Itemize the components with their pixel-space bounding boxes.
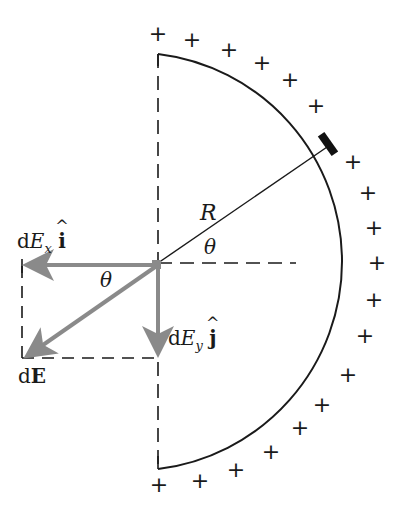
plus-charge-icon: + (183, 29, 201, 51)
plus-charge-icon: + (307, 95, 325, 117)
dEy-label: dEy ^j (168, 328, 216, 348)
plus-charge-icon: + (220, 39, 238, 61)
dEx-subscript: x (44, 241, 51, 256)
i-hat-unit: ^i (58, 231, 66, 251)
radius-label: R (200, 202, 217, 224)
plus-charge-icon: + (149, 23, 167, 45)
dEx-d: d (17, 229, 30, 253)
plus-charge-icon: + (150, 474, 168, 496)
plus-charge-icon: + (262, 441, 280, 463)
plus-charge-icon: + (344, 151, 362, 173)
plus-charge-icon: + (281, 69, 299, 91)
dE-E: E (31, 364, 46, 388)
dE-vector (30, 265, 158, 354)
hat-symbol: ^ (55, 219, 68, 235)
plus-charge-icon: + (339, 364, 357, 386)
dE-d: d (18, 364, 31, 388)
plus-charge-icon: + (359, 182, 377, 204)
diagram-canvas (0, 0, 411, 521)
theta-arc-label: θ (204, 237, 216, 257)
plus-charge-icon: + (368, 252, 386, 274)
plus-charge-icon: + (313, 394, 331, 416)
dEx-label: dEx ^i (17, 231, 66, 251)
plus-charge-icon: + (253, 52, 271, 74)
dEy-E: E (181, 326, 196, 350)
charge-element (318, 132, 338, 156)
theta-vector-label: θ (100, 270, 112, 290)
plus-charge-icon: + (365, 289, 383, 311)
hat-symbol: ^ (206, 316, 219, 332)
dEx-E: E (30, 229, 45, 253)
plus-charge-icon: + (227, 459, 245, 481)
vector-origin (152, 260, 161, 269)
radius-line (158, 145, 330, 263)
j-hat-unit: ^j (209, 328, 216, 348)
dE-label: dE (18, 366, 46, 386)
plus-charge-icon: + (291, 417, 309, 439)
dEy-subscript: y (195, 338, 202, 353)
plus-charge-icon: + (356, 325, 374, 347)
plus-charge-icon: + (365, 217, 383, 239)
plus-charge-icon: + (191, 470, 209, 492)
dEy-d: d (168, 326, 181, 350)
